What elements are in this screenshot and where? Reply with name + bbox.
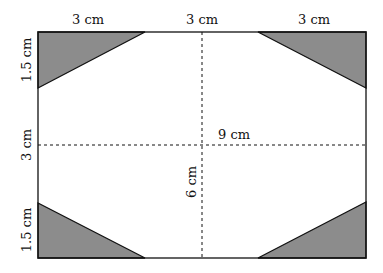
label-horizontal-length: 9 cm (218, 127, 250, 142)
label-top-right: 3 cm (298, 12, 330, 27)
label-top-left: 3 cm (72, 12, 104, 27)
label-vertical-length: 6 cm (184, 166, 199, 198)
bottom-left-triangle (38, 203, 145, 258)
bottom-right-triangle (258, 202, 366, 258)
label-top-middle: 3 cm (186, 12, 218, 27)
label-left-top: 1.5 cm (19, 38, 34, 82)
rectangle-diagram: 3 cm 3 cm 3 cm 1.5 cm 3 cm 1.5 cm 9 cm 6… (0, 0, 383, 273)
label-left-bottom: 1.5 cm (19, 208, 34, 252)
label-left-middle: 3 cm (19, 129, 34, 161)
top-left-triangle (38, 32, 145, 88)
top-right-triangle (258, 32, 366, 88)
